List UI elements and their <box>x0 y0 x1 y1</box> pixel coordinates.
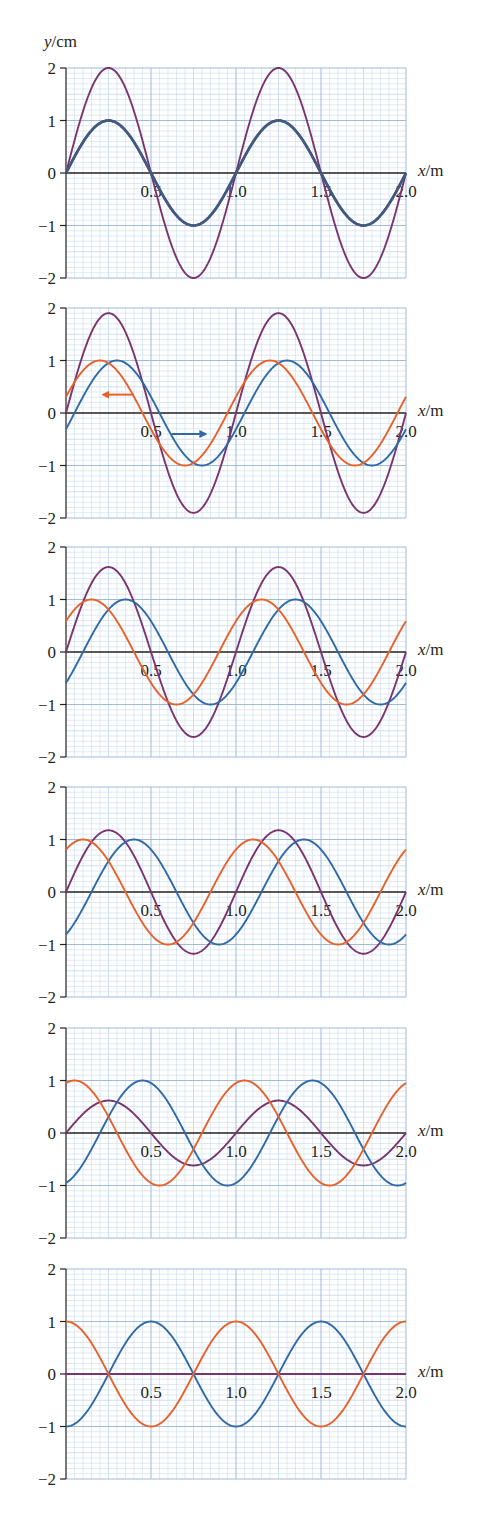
y-tick-label: −2 <box>38 1470 56 1489</box>
y-tick-label: −1 <box>38 1418 56 1437</box>
x-axis-title: x/m <box>417 161 444 180</box>
x-axis-title: x/m <box>417 640 444 659</box>
x-axis-title: x/m <box>417 880 444 899</box>
y-tick-label: 0 <box>48 1365 57 1384</box>
x-tick-label: 0.5 <box>140 1142 161 1161</box>
y-tick-label: 1 <box>48 1072 57 1091</box>
y-tick-label: −1 <box>38 696 56 715</box>
panel-3: 210−1−20.51.01.52.0x/m <box>38 538 444 767</box>
y-axis-var: y <box>42 32 52 51</box>
y-tick-label: 0 <box>48 643 57 662</box>
x-axis-unit: /m <box>426 1121 444 1140</box>
y-tick-label: −1 <box>38 936 56 955</box>
y-tick-label: 1 <box>48 831 57 850</box>
y-tick-label: 2 <box>48 59 57 78</box>
x-tick-label: 2.0 <box>395 1383 416 1402</box>
y-tick-label: −2 <box>38 1229 56 1248</box>
y-tick-label: 1 <box>48 352 57 371</box>
y-tick-label: −1 <box>38 217 56 236</box>
y-axis-unit: /cm <box>52 32 78 51</box>
y-tick-label: −1 <box>38 1177 56 1196</box>
x-tick-label: 1.0 <box>225 1142 246 1161</box>
x-axis-title: x/m <box>417 1121 444 1140</box>
y-tick-label: 2 <box>48 778 57 797</box>
x-axis-title: x/m <box>417 401 444 420</box>
y-tick-label: 1 <box>48 591 57 610</box>
x-axis-unit: /m <box>426 640 444 659</box>
x-tick-label: 1.5 <box>310 1142 331 1161</box>
y-tick-label: 1 <box>48 112 57 131</box>
y-tick-label: −2 <box>38 748 56 767</box>
panel-4: 210−1−20.51.01.52.0x/m <box>38 778 444 1007</box>
y-tick-label: −2 <box>38 269 56 288</box>
y-tick-label: −1 <box>38 457 56 476</box>
y-tick-label: 2 <box>48 538 57 557</box>
y-axis-title: y/cm <box>42 32 77 51</box>
panel-1: 210−1−20.51.01.52.0x/m <box>38 59 444 288</box>
panel-5: 210−1−20.51.01.52.0x/m <box>38 1019 444 1248</box>
x-axis-unit: /m <box>426 1362 444 1381</box>
x-axis-unit: /m <box>426 880 444 899</box>
y-tick-label: −2 <box>38 988 56 1007</box>
y-tick-label: 0 <box>48 1124 57 1143</box>
y-tick-label: −2 <box>38 509 56 528</box>
x-tick-label: 2.0 <box>395 1142 416 1161</box>
y-tick-label: 0 <box>48 883 57 902</box>
x-tick-label: 1.5 <box>310 1383 331 1402</box>
y-tick-label: 2 <box>48 1260 57 1279</box>
y-tick-label: 0 <box>48 404 57 423</box>
x-tick-label: 0.5 <box>140 1383 161 1402</box>
x-tick-label: 1.0 <box>225 1383 246 1402</box>
x-axis-unit: /m <box>426 161 444 180</box>
y-tick-label: 2 <box>48 299 57 318</box>
y-tick-label: 1 <box>48 1313 57 1332</box>
y-tick-label: 2 <box>48 1019 57 1038</box>
panel-6: 210−1−20.51.01.52.0x/m <box>38 1260 444 1489</box>
x-axis-unit: /m <box>426 401 444 420</box>
y-tick-label: 0 <box>48 164 57 183</box>
wave-superposition-chart: y/cm 210−1−20.51.01.52.0x/m210−1−20.51.0… <box>0 0 483 1522</box>
x-axis-title: x/m <box>417 1362 444 1381</box>
panel-2: 210−1−20.51.01.52.0x/m <box>38 299 444 528</box>
